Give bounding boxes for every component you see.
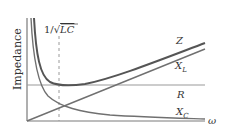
label-XL: XL [174,60,187,74]
label-R: R [176,89,185,100]
impedance-chart: Impedance 1/√LC Z XL R XC ω [0,0,230,137]
resonance-label: 1/√LC [44,24,75,35]
y-axis-label: Impedance [11,28,24,90]
x-axis-label: ω [208,115,216,126]
label-Z: Z [175,35,184,46]
